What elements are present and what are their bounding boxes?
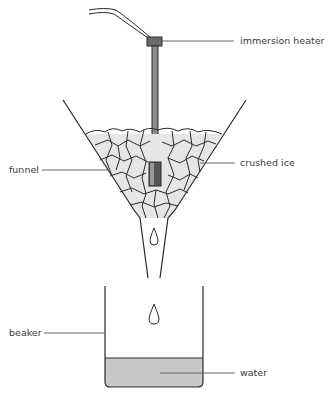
water-drop-stem xyxy=(150,228,158,245)
label-water: water xyxy=(240,368,267,378)
label-funnel: funnel xyxy=(9,165,39,175)
apparatus-diagram xyxy=(0,0,328,395)
heater-cable xyxy=(89,9,150,39)
water-drop-falling xyxy=(149,304,159,324)
label-immersion-heater: immersion heater xyxy=(240,36,325,46)
label-crushed-ice: crushed ice xyxy=(240,158,295,168)
heater-cap xyxy=(147,37,162,46)
label-beaker: beaker xyxy=(9,328,42,338)
beaker xyxy=(105,286,203,387)
